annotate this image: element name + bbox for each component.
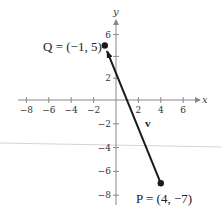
vector-v (107, 51, 161, 183)
y-tick-label: 6 (105, 30, 111, 40)
y-axis-label: y (112, 6, 119, 17)
x-tick-label: 6 (180, 105, 186, 115)
x-tick-label: −8 (20, 105, 34, 115)
y-tick-label: −6 (98, 166, 112, 176)
x-tick-label: 4 (158, 105, 164, 115)
x-axis-label: x (202, 94, 208, 105)
point-p-label: P = (4, −7) (136, 191, 192, 206)
coordinate-plane: x y −8−6−4−2246 62−2−4−6−8 v Q = (−1, 5)… (0, 0, 221, 216)
x-tick-label: −6 (42, 105, 56, 115)
point-q (102, 42, 108, 48)
vector-v-label: v (145, 117, 151, 129)
x-tick-label: −4 (65, 105, 79, 115)
y-tick-label: −2 (98, 119, 111, 129)
y-tick-label: −8 (98, 190, 112, 200)
x-tick-label: −2 (87, 105, 100, 115)
y-tick-label: −4 (98, 143, 112, 153)
y-tick-label: 2 (105, 73, 111, 83)
x-tick-label: 2 (136, 105, 142, 115)
point-q-label: Q = (−1, 5) (43, 39, 102, 54)
point-p (158, 180, 164, 186)
